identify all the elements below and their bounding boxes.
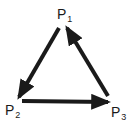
node-label-p1: P1 [57,7,72,24]
node-label-subscript: 2 [15,110,20,120]
arrow-p1-to-p2 [19,28,59,97]
node-label-subscript: 3 [121,112,126,122]
arrow-p2-to-p3 [22,101,108,102]
node-label-subscript: 1 [67,14,72,24]
node-label-base: P [5,102,14,118]
node-label-p3: P3 [111,105,126,122]
node-label-base: P [111,104,120,120]
cycle-diagram: P1 P2 P3 [0,0,135,128]
node-label-base: P [57,6,66,22]
node-label-p2: P2 [5,103,20,120]
arrow-p3-to-p1 [67,28,108,96]
